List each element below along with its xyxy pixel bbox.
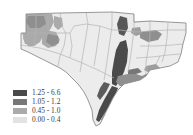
legend-label-class1: 1.25 - 6.6 <box>32 88 60 97</box>
legend-swatch-class4 <box>13 117 27 123</box>
legend-label-class3: 0.45 - 1.0 <box>32 106 60 115</box>
legend-row: 1.25 - 6.6 <box>13 88 91 97</box>
legend-row: 0.45 - 1.0 <box>13 106 91 115</box>
legend-label-class2: 1.05 - 1.2 <box>32 97 60 106</box>
legend-swatch-class3 <box>13 108 27 114</box>
legend-swatch-class1 <box>13 90 27 96</box>
figure-canvas: 1.25 - 6.6 1.05 - 1.2 0.45 - 1.0 0.00 - … <box>0 0 193 135</box>
map-legend: 1.25 - 6.6 1.05 - 1.2 0.45 - 1.0 0.00 - … <box>13 88 91 124</box>
legend-row: 0.00 - 0.4 <box>13 115 91 124</box>
legend-swatch-class2 <box>13 99 27 105</box>
region-class2-coastal-strip <box>116 74 154 86</box>
legend-row: 1.05 - 1.2 <box>13 97 91 106</box>
legend-label-class4: 0.00 - 0.4 <box>32 115 60 124</box>
